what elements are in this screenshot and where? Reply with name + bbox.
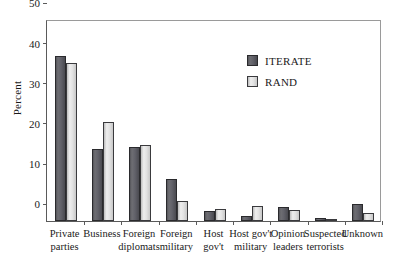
x-axis-tick-mark [382, 221, 383, 225]
y-axis-tick: 50 [29, 0, 47, 11]
bar-rand [140, 145, 151, 221]
bar-group [92, 122, 114, 221]
bar-group [55, 56, 77, 221]
y-axis-tick-label: 30 [29, 78, 40, 90]
legend-item-rand: RAND [247, 71, 312, 92]
y-axis-tick: 40 [29, 33, 47, 51]
x-axis-tick-mark [196, 221, 197, 225]
x-axis-label: Unknown [317, 228, 394, 241]
bar-group [278, 207, 300, 221]
y-axis-tick-label: 50 [29, 0, 40, 9]
y-axis-tick: 20 [29, 114, 47, 132]
bar-group [129, 145, 151, 221]
y-axis-tick-mark [43, 204, 47, 205]
bar-iterate [92, 149, 103, 221]
bar-iterate [129, 147, 140, 221]
y-axis-tick: 10 [29, 154, 47, 172]
bar-rand [363, 213, 374, 221]
bar-rand [66, 63, 77, 221]
bar-chart: Percent 01020304050 PrivatepartiesBusine… [0, 0, 394, 271]
legend: ITERATE RAND [247, 50, 312, 92]
bar-group [166, 179, 188, 221]
bar-group [315, 218, 337, 221]
bar-rand [215, 209, 226, 221]
bar-rand [177, 201, 188, 222]
y-axis-tick-mark [43, 83, 47, 84]
bar-group [204, 209, 226, 221]
x-axis-tick-mark [84, 221, 85, 225]
x-axis-tick-mark [233, 221, 234, 225]
bar-iterate [278, 207, 289, 221]
x-axis-tick-mark [121, 221, 122, 225]
legend-label-rand: RAND [265, 76, 297, 88]
y-axis-tick-label: 0 [35, 198, 41, 210]
x-axis-tick-mark [345, 221, 346, 225]
y-axis-tick-label: 40 [29, 38, 40, 50]
bar-iterate [315, 218, 326, 221]
x-axis-label-line: terrorists [280, 241, 370, 254]
y-axis-tick-label: 20 [29, 118, 40, 130]
bar-iterate [166, 179, 177, 221]
bar-group [241, 206, 263, 221]
y-axis-title: Percent [11, 48, 23, 148]
bar-iterate [241, 216, 252, 221]
legend-label-iterate: ITERATE [265, 55, 312, 67]
legend-swatch-rand [247, 76, 258, 87]
bar-iterate [204, 211, 215, 221]
bar-group [352, 204, 374, 221]
x-axis-tick-mark [159, 221, 160, 225]
bar-rand [289, 210, 300, 221]
legend-swatch-iterate [247, 55, 258, 66]
y-axis-tick-mark [43, 3, 47, 4]
y-axis-tick-mark [43, 43, 47, 44]
x-axis-tick-mark [270, 221, 271, 225]
legend-item-iterate: ITERATE [247, 50, 312, 71]
plot-area: 01020304050 [46, 20, 381, 222]
bar-rand [103, 122, 114, 221]
y-axis-tick-mark [43, 123, 47, 124]
x-axis-tick-mark [308, 221, 309, 225]
bar-iterate [55, 56, 66, 221]
y-axis-tick-label: 10 [29, 158, 40, 170]
y-axis-tick: 0 [35, 194, 48, 212]
bar-rand [252, 206, 263, 221]
y-axis-tick-mark [43, 164, 47, 165]
bar-rand [326, 219, 337, 221]
x-axis-label-line: Unknown [317, 228, 394, 241]
y-axis-tick: 30 [29, 73, 47, 91]
bar-iterate [352, 204, 363, 221]
